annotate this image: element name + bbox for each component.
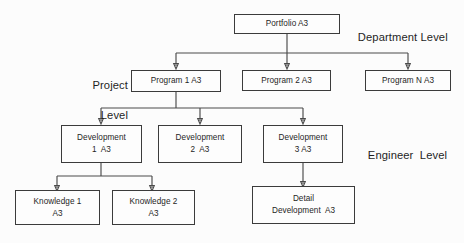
node-portfolio[interactable]: Portfolio A3 [234, 14, 340, 34]
node-knowledge-2-label: Knowledge 2 [130, 196, 178, 208]
node-program-2[interactable]: Program 2 A3 [242, 70, 331, 91]
node-development-2[interactable]: Development 2 A3 [158, 125, 242, 163]
node-program-1[interactable]: Program 1 A3 [131, 70, 221, 92]
label-project-level-line1: Project [92, 79, 128, 91]
node-development-1[interactable]: Development 1 A3 [61, 125, 142, 163]
node-detail-development-label: Detail [293, 193, 314, 205]
node-development-3-sublabel: 3 A3 [295, 144, 312, 156]
label-engineer-level: Engineer Level [355, 133, 447, 178]
label-engineer-level-text: Engineer Level [368, 149, 447, 161]
label-department-level-text: Department Level [358, 31, 448, 43]
node-portfolio-label: Portfolio A3 [266, 18, 308, 30]
node-development-2-sublabel: 2 A3 [191, 144, 210, 156]
node-program-n-label: Program N A3 [382, 75, 434, 87]
node-program-1-label: Program 1 A3 [151, 75, 202, 87]
node-development-1-sublabel: 1 A3 [92, 144, 111, 156]
node-development-1-label: Development [77, 132, 126, 144]
node-knowledge-1[interactable]: Knowledge 1 A3 [15, 190, 100, 225]
node-program-n[interactable]: Program N A3 [365, 70, 451, 91]
node-knowledge-1-sublabel: A3 [52, 208, 62, 220]
node-detail-development-sublabel: Development A3 [272, 205, 335, 217]
node-knowledge-1-label: Knowledge 1 [34, 196, 82, 208]
node-detail-development[interactable]: Detail Development A3 [252, 186, 355, 224]
node-knowledge-2-sublabel: A3 [148, 208, 158, 220]
node-development-3[interactable]: Development 3 A3 [263, 125, 343, 163]
node-development-2-label: Development [176, 132, 225, 144]
diagram-canvas: Portfolio A3 Department Level Project Le… [0, 0, 464, 243]
node-knowledge-2[interactable]: Knowledge 2 A3 [112, 190, 195, 225]
label-project-level-line2: Level [101, 109, 128, 121]
label-department-level: Department Level [345, 15, 448, 60]
node-development-3-label: Development [279, 132, 328, 144]
node-program-2-label: Program 2 A3 [261, 75, 312, 87]
